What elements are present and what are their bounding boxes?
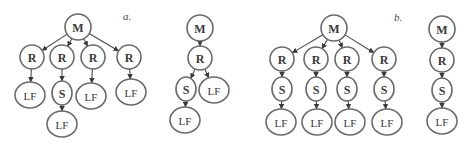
node-tree-a-narrow-LF2: LF (170, 107, 200, 133)
node-tree-a-narrow-R1: R (188, 46, 212, 70)
node-tree-a-narrow-LF1: LF (199, 77, 229, 103)
node-label: S (59, 87, 66, 101)
node-label: R (89, 51, 98, 65)
edge-tree-b-wide-M-R3 (339, 40, 342, 48)
panel-label-a: a. (123, 10, 131, 22)
node-tree-b-wide-S4: S (374, 77, 394, 101)
node-label: S (344, 83, 351, 97)
node-label: M (72, 21, 83, 35)
node-label: S (279, 83, 286, 97)
node-label: M (328, 22, 339, 36)
edge-tree-a-wide-M-R2 (68, 38, 72, 46)
edge-tree-a-wide-R3-LF3 (92, 69, 93, 83)
nodes: MRRRRSLFLFLFLFMRSLFLFMRRRRSSSSLFLFLFLFMR… (15, 14, 457, 137)
node-label: LF (56, 119, 69, 131)
node-tree-b-narrow-LF1: LF (427, 108, 457, 134)
node-tree-a-wide-R3: R (81, 45, 105, 69)
node-tree-b-wide-LF2: LF (302, 109, 332, 135)
node-label: R (58, 51, 67, 65)
node-tree-a-narrow-S1: S (176, 77, 196, 101)
node-tree-b-wide-R3: R (335, 47, 359, 71)
panel-label-b: b. (394, 11, 402, 23)
node-tree-a-wide-R2: R (50, 45, 74, 69)
node-label: S (439, 84, 446, 98)
node-label: R (343, 53, 352, 67)
node-tree-b-wide-M: M (321, 15, 347, 41)
node-label: S (381, 83, 388, 97)
edge-tree-b-wide-M-R2 (322, 39, 327, 48)
node-label: R (278, 53, 287, 67)
node-label: LF (344, 117, 357, 129)
node-tree-a-wide-LF4: LF (116, 79, 146, 105)
node-tree-a-wide-M: M (65, 14, 91, 40)
node-label: LF (85, 91, 98, 103)
node-tree-a-wide-LF3: LF (76, 83, 106, 109)
node-tree-b-wide-LF1: LF (266, 109, 296, 135)
node-tree-a-wide-R4: R (117, 45, 141, 69)
node-label: R (28, 51, 37, 65)
edge-tree-b-wide-S4-LF4 (385, 101, 386, 109)
edge-tree-a-narrow-R1-S1 (191, 69, 195, 79)
node-label: LF (179, 115, 192, 127)
node-label: S (183, 83, 190, 97)
node-tree-a-narrow-M: M (187, 15, 213, 41)
node-label: M (436, 23, 447, 37)
node-label: R (125, 51, 134, 65)
node-label: R (380, 53, 389, 67)
node-label: LF (311, 117, 324, 129)
node-tree-b-wide-R1: R (270, 47, 294, 71)
node-tree-b-wide-R2: R (304, 47, 328, 71)
node-tree-b-wide-R4: R (372, 47, 396, 71)
node-tree-a-wide-LF1: LF (15, 82, 45, 108)
node-label: R (438, 54, 447, 68)
node-label: S (313, 83, 320, 97)
node-label: LF (24, 90, 37, 102)
node-tree-b-narrow-R1: R (430, 48, 454, 72)
node-tree-b-wide-LF3: LF (335, 109, 365, 135)
node-label: LF (208, 85, 221, 97)
node-label: LF (436, 116, 449, 128)
node-tree-b-wide-S1: S (272, 77, 292, 101)
node-tree-b-narrow-M: M (429, 16, 455, 42)
node-label: LF (275, 117, 288, 129)
node-tree-b-narrow-S1: S (432, 78, 452, 102)
node-tree-a-wide-LF2: LF (47, 111, 77, 137)
hierarchy-diagram: a. b. MRRRRSLFLFLFLFMRSLFLFMRRRRSSSSLFLF… (0, 0, 474, 144)
node-tree-a-wide-S1: S (52, 81, 72, 105)
edge-tree-a-narrow-R1-LF1 (205, 69, 209, 78)
node-tree-b-wide-S3: S (337, 77, 357, 101)
node-label: LF (381, 117, 394, 129)
node-tree-b-wide-LF4: LF (372, 109, 402, 135)
edge-tree-a-wide-R1-LF1 (31, 69, 32, 82)
node-tree-a-wide-R1: R (20, 45, 44, 69)
edge-tree-a-wide-R4-LF4 (130, 69, 131, 79)
node-label: LF (125, 87, 138, 99)
node-tree-b-wide-S2: S (306, 77, 326, 101)
edge-tree-a-wide-M-R3 (84, 39, 88, 47)
node-label: M (194, 22, 205, 36)
edge-tree-b-wide-S3-LF3 (348, 101, 349, 109)
node-label: R (196, 52, 205, 66)
node-label: R (312, 53, 321, 67)
